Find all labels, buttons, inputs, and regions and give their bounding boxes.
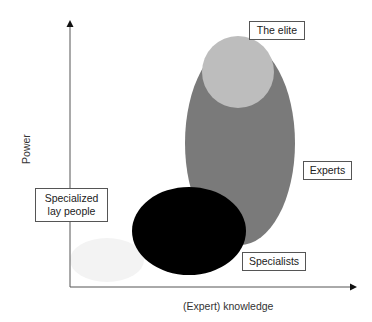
experts-label: Experts	[303, 161, 352, 180]
elite-label: The elite	[249, 21, 305, 40]
lay-people-label-line2: lay people	[48, 205, 96, 218]
lay-people-label: Specialized lay people	[35, 188, 108, 222]
elite-region	[202, 36, 274, 108]
y-axis-arrow-icon	[67, 20, 74, 27]
x-axis-arrow-icon	[350, 284, 357, 291]
specialists-label-text: Specialists	[249, 255, 299, 268]
lay-people-label-line1: Specialized	[45, 192, 99, 205]
elite-label-text: The elite	[257, 24, 297, 37]
x-axis-label: (Expert) knowledge	[183, 300, 273, 312]
experts-label-text: Experts	[310, 164, 346, 177]
lay-people-region	[70, 238, 144, 282]
specialists-region	[132, 187, 246, 275]
y-axis-label: Power	[20, 132, 32, 166]
specialists-label: Specialists	[242, 252, 306, 271]
